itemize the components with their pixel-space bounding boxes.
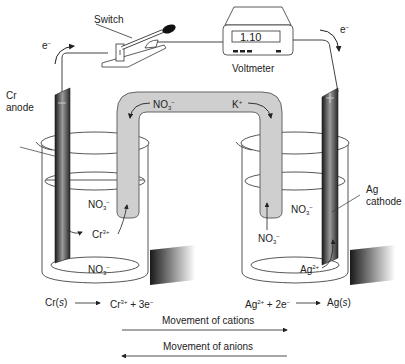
left-no3-bottom: NO3− bbox=[88, 262, 110, 279]
cathode-metal-label: Ag bbox=[366, 184, 378, 195]
left-cr-ion: Cr3+ bbox=[92, 227, 109, 240]
salt-bridge bbox=[117, 92, 282, 218]
anode-reaction-reactant: Cr(s) bbox=[45, 297, 67, 308]
right-no3-from-bridge: NO3− bbox=[258, 231, 280, 248]
cathode-reaction-product: Ag(s) bbox=[327, 297, 351, 308]
right-no3-top: NO3− bbox=[291, 202, 313, 219]
external-circuit-wire bbox=[62, 40, 338, 95]
diagram-canvas bbox=[0, 0, 405, 364]
cathode-reaction-reactant: Ag2+ + 2e− bbox=[245, 297, 290, 310]
electron-label-right: e− bbox=[340, 22, 349, 35]
switch-label: Switch bbox=[94, 14, 123, 25]
anode-word-label: anode bbox=[6, 102, 34, 113]
bridge-anion-label: NO3− bbox=[153, 97, 175, 114]
switch-icon bbox=[96, 23, 177, 67]
electron-label-left: e− bbox=[42, 38, 51, 51]
voltmeter-reading: 1.10 bbox=[240, 32, 261, 43]
cathode-word-label: cathode bbox=[366, 196, 402, 207]
left-no3-top: NO3− bbox=[88, 197, 110, 214]
ag-cathode-electrode bbox=[322, 88, 338, 265]
cr-anode-electrode bbox=[55, 88, 70, 263]
right-ag-ion: Ag2+ bbox=[300, 262, 319, 275]
anion-movement-label: Movement of anions bbox=[163, 341, 253, 352]
anode-reaction-product: Cr3+ + 3e− bbox=[110, 297, 153, 310]
electron-flow-arrow-left bbox=[55, 46, 74, 64]
anode-metal-label: Cr bbox=[6, 90, 17, 101]
voltmeter-label: Voltmeter bbox=[232, 63, 274, 74]
bridge-cation-label: K+ bbox=[232, 97, 242, 110]
beaker-shadow-right bbox=[350, 245, 395, 285]
cation-movement-label: Movement of cations bbox=[162, 315, 254, 326]
beaker-shadow-left bbox=[150, 245, 195, 285]
